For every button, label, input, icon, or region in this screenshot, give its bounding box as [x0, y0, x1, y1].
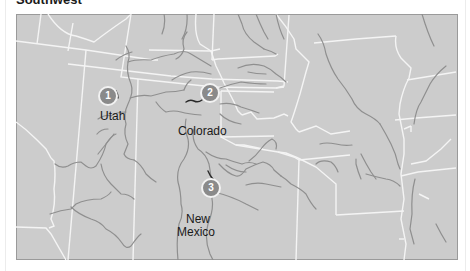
state-label-colorado: Colorado [178, 125, 227, 138]
left-frame-line [5, 0, 6, 271]
marker-2[interactable]: 2 [200, 83, 220, 103]
state-label-new-mexico-line2: Mexico [177, 226, 215, 239]
state-label-utah: Utah [100, 110, 125, 123]
map-canvas [16, 14, 458, 260]
marker-3[interactable]: 3 [201, 178, 221, 198]
marker-1[interactable]: 1 [98, 86, 118, 106]
southwest-map: 1 2 3 Utah Colorado New Mexico [16, 14, 458, 260]
right-frame-line [465, 0, 466, 271]
map-title: Southwest [16, 0, 82, 7]
